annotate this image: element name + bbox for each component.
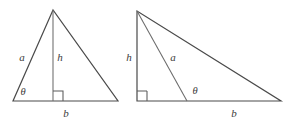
left-triangle-label-side-a: a <box>19 51 25 63</box>
left-triangle-right-angle-icon <box>53 91 63 101</box>
right-triangle-right-angle-icon <box>137 91 147 101</box>
right-triangle-label-angle-theta: θ <box>192 85 197 96</box>
geometry-figure-canvas: a h θ b h a θ b <box>0 0 287 126</box>
right-triangle-diagram: h a θ b <box>126 11 281 119</box>
right-triangle-outline <box>137 11 281 101</box>
left-triangle-label-angle-theta: θ <box>20 86 25 97</box>
right-triangle-label-side-a: a <box>170 51 176 63</box>
left-triangle-label-base-b: b <box>63 107 69 119</box>
left-triangle-diagram: a h θ b <box>13 10 118 119</box>
geometry-figure: a h θ b h a θ b <box>0 0 287 126</box>
left-triangle-outline <box>13 10 118 101</box>
right-triangle-segment-a-line <box>137 11 187 101</box>
left-triangle-label-height-h: h <box>57 51 63 63</box>
right-triangle-label-height-h: h <box>126 51 132 63</box>
right-triangle-label-base-b: b <box>231 107 237 119</box>
